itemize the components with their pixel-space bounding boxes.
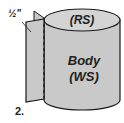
top-label: (RS)	[70, 13, 95, 27]
body-sublabel: (WS)	[69, 69, 99, 84]
seam-allowance-label: ½"	[8, 8, 21, 19]
step-number: 2.	[15, 105, 24, 117]
body-label: Body	[68, 53, 101, 68]
seam-flap	[26, 19, 44, 102]
cylinder-diagram: (RS) Body (WS) ½" 2.	[0, 0, 124, 123]
